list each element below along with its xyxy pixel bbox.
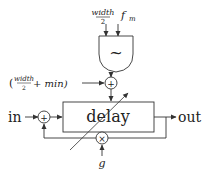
- offset-sum-node: +: [105, 77, 117, 89]
- svg-text:(: (: [9, 77, 13, 90]
- svg-text:f: f: [120, 9, 127, 22]
- svg-text:×: ×: [98, 134, 106, 144]
- svg-text:width: width: [14, 75, 34, 83]
- out-label: out: [178, 109, 201, 125]
- svg-text:width: width: [92, 8, 115, 17]
- offset-input-label: ( width 2 + min): [9, 75, 68, 91]
- svg-text:2: 2: [22, 84, 26, 91]
- input-sum-node: +: [38, 111, 50, 123]
- svg-text:+: +: [107, 79, 115, 89]
- oscillator-symbol: ~: [109, 43, 122, 62]
- svg-text:m: m: [129, 15, 136, 23]
- svg-text:2: 2: [101, 18, 105, 26]
- gain-label: g: [98, 157, 105, 170]
- delay-label: delay: [86, 107, 129, 126]
- svg-text:+: +: [40, 113, 48, 123]
- svg-text:+ min): + min): [33, 78, 68, 89]
- width-half-input-label: width 2: [92, 8, 115, 26]
- in-label: in: [8, 109, 22, 125]
- fm-input-label: f m: [120, 9, 136, 23]
- flanger-diagram: width 2 f m ~ + ( width 2 + min) delay i…: [0, 0, 210, 175]
- feedback-gain-node: ×: [96, 132, 108, 144]
